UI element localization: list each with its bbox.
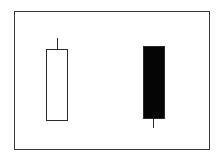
bearish-black-candle-body — [143, 46, 165, 119]
chart-frame — [14, 11, 210, 150]
bearish-black-candle-lower-wick — [153, 119, 155, 128]
bullish-white-candle-body — [46, 49, 68, 121]
bullish-white-candle-upper-wick — [57, 38, 59, 49]
